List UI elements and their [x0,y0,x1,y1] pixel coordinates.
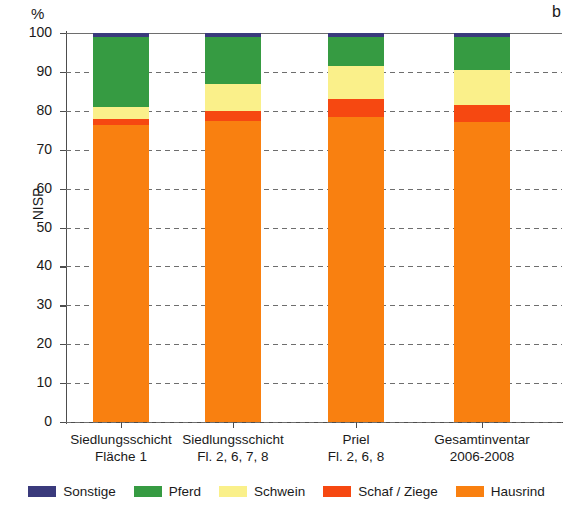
y-axis-tick [60,383,66,384]
panel-letter: b [552,4,561,20]
legend-item[interactable]: Sonstige [28,484,116,499]
bar-stack[interactable] [205,33,261,422]
plot-area [66,33,562,422]
category-label-line1: Priel [342,432,369,447]
bar-segment[interactable] [328,33,384,37]
legend-item[interactable]: Hausrind [456,484,545,499]
legend-label: Hausrind [491,484,545,499]
bar-segment[interactable] [93,33,149,37]
y-axis-tick-label: 10 [0,374,52,390]
legend-swatch [28,486,56,497]
chart-legend: SonstigePferdSchweinSchaf / ZiegeHausrin… [0,484,573,499]
gridline [66,422,562,423]
legend-label: Pferd [169,484,201,499]
bar-segment[interactable] [205,33,261,37]
bar-segment[interactable] [454,70,510,105]
bar-segment[interactable] [454,122,510,422]
y-axis-tick [60,189,66,190]
y-axis-tick-label: 50 [0,219,52,235]
category-label-line1: Siedlungsschicht [70,432,171,447]
y-axis-tick-label: 40 [0,257,52,273]
x-axis-tick [121,422,122,428]
y-axis-tick [60,111,66,112]
legend-item[interactable]: Pferd [134,484,201,499]
bar-stack[interactable] [328,33,384,422]
y-axis-unit-label: % [31,6,44,21]
bar-segment[interactable] [93,107,149,119]
y-axis-tick [60,305,66,306]
y-axis-tick-label: 80 [0,102,52,118]
y-axis-tick-label: 90 [0,63,52,79]
legend-swatch [323,486,351,497]
bar-segment[interactable] [93,119,149,126]
legend-swatch [134,486,162,497]
y-axis-tick [60,228,66,229]
category-label: Gesamtinventar2006-2008 [407,432,557,465]
bar-segment[interactable] [328,37,384,66]
y-axis-tick-label: 0 [0,413,52,429]
y-axis-tick [60,72,66,73]
y-axis-tick-label: 100 [0,24,52,40]
bar-stack[interactable] [93,33,149,422]
category-label-line2: 2006-2008 [407,449,557,466]
bar-segment[interactable] [454,37,510,70]
legend-label: Schwein [254,484,305,499]
bar-segment[interactable] [328,117,384,422]
bar-stack[interactable] [454,33,510,422]
bar-segment[interactable] [205,111,261,121]
x-axis-tick [233,422,234,428]
bar-segment[interactable] [328,99,384,117]
bar-segment[interactable] [93,125,149,422]
y-axis-tick [60,150,66,151]
bar-segment[interactable] [454,105,510,123]
category-label-line1: Gesamtinventar [434,432,529,447]
legend-swatch [456,486,484,497]
y-axis-tick-label: 30 [0,296,52,312]
bar-segment[interactable] [205,121,261,422]
legend-swatch [219,486,247,497]
bar-segment[interactable] [454,33,510,37]
y-axis-tick [60,422,66,423]
category-label-line1: Siedlungsschicht [182,432,283,447]
y-axis-tick [60,33,66,34]
bar-segment[interactable] [93,37,149,107]
chart-container: % b NISP 0102030405060708090100 Siedlung… [0,0,573,515]
y-axis-tick-label: 60 [0,180,52,196]
x-axis-tick [356,422,357,428]
y-axis-tick-label: 70 [0,141,52,157]
legend-label: Sonstige [63,484,116,499]
y-axis-tick [60,266,66,267]
legend-item[interactable]: Schaf / Ziege [323,484,438,499]
y-axis-tick-label: 20 [0,335,52,351]
y-axis-title: NISP [30,144,46,264]
legend-item[interactable]: Schwein [219,484,305,499]
bar-segment[interactable] [205,84,261,111]
y-axis-tick [60,344,66,345]
x-axis-tick [482,422,483,428]
legend-label: Schaf / Ziege [358,484,438,499]
bar-segment[interactable] [328,66,384,99]
bar-segment[interactable] [205,37,261,84]
